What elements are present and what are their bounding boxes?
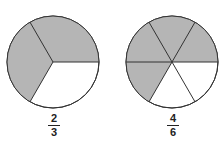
circle-two-thirds (7, 16, 99, 108)
circle-four-sixths (126, 16, 218, 108)
numerator: 4 (163, 113, 183, 124)
denominator: 3 (44, 127, 64, 138)
fraction-label-left: 2 3 (44, 113, 64, 138)
fraction-label-right: 4 6 (163, 113, 183, 138)
fraction-diagram (0, 0, 224, 146)
numerator: 2 (44, 113, 64, 124)
denominator: 6 (163, 127, 183, 138)
